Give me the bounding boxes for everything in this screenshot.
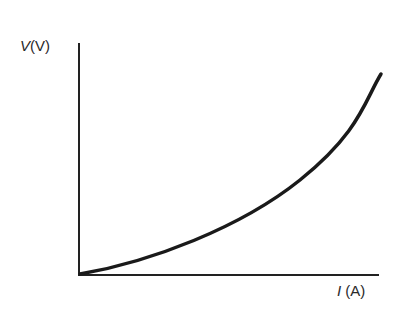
x-axis-label: I (A) (337, 283, 365, 298)
x-axis-symbol: I (337, 282, 341, 299)
y-axis-symbol: V (20, 37, 30, 54)
chart-plot (0, 0, 398, 311)
x-axis-unit: (A) (345, 282, 365, 299)
y-axis-unit: (V) (30, 37, 50, 54)
curve-v-vs-i (80, 74, 381, 274)
y-axis-label: V(V) (20, 38, 50, 53)
